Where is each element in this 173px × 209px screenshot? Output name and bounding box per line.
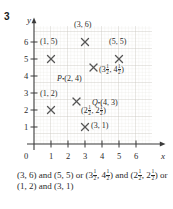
y-tick-5: 5 [24, 54, 28, 64]
y-tick-1: 1 [24, 122, 28, 132]
x-tick-1: 1 [49, 151, 53, 161]
x-axis-label: x [160, 151, 165, 161]
y-axis-label: y [26, 15, 31, 25]
coordinate-graph: 0 1 2 3 4 5 6 1 2 3 4 5 6 y x (1, 5) (3,… [16, 14, 171, 164]
x-tick-5: 5 [117, 151, 121, 161]
point-coords-P: (2, 4) [64, 74, 81, 83]
label-frac2-close: ) [103, 106, 106, 115]
x-tick-4: 4 [100, 151, 105, 161]
label-frac2-mid: , 2 [91, 106, 99, 115]
label-frac2-open: (2 [81, 106, 88, 115]
caption-seg2: , 4 [97, 170, 106, 180]
label-point-1-5: (1, 5) [40, 38, 57, 47]
label-point-1-2: (1, 2) [40, 90, 57, 99]
caption-seg4: (2 [130, 170, 138, 180]
answer-caption: (3, 6) and (5, 5) or (312, 412) and (212… [17, 169, 169, 192]
label-frac-close: ) [121, 65, 124, 74]
worksheet-answer-figure: 3 [0, 0, 173, 209]
x-tick-3: 3 [83, 151, 87, 161]
label-point-3-1: (3, 1) [91, 122, 108, 131]
x-tick-2: 2 [66, 151, 70, 161]
origin-label: 0 [24, 151, 28, 161]
label-point-3-6: (3, 6) [74, 21, 91, 30]
label-point-5-5: (5, 5) [109, 38, 126, 47]
label-point-P: P•(2, 4) [57, 75, 82, 84]
label-frac-open: (3 [99, 65, 106, 74]
x-tick-6: 6 [134, 151, 138, 161]
label-point-2half-2half: (212, 212) [81, 105, 106, 116]
question-number: 3 [4, 12, 10, 22]
caption-seg5: , 2 [142, 170, 151, 180]
y-tick-6: 6 [24, 37, 28, 47]
y-tick-4: 4 [24, 71, 29, 81]
caption-seg3: ) and [110, 170, 128, 180]
label-frac-mid: , 4 [109, 65, 117, 74]
y-tick-2: 2 [24, 105, 28, 115]
caption-seg1: (3, 6) and (5, 5) or (3 [17, 170, 93, 180]
label-point-3half-4half: (312, 412) [99, 64, 124, 75]
y-tick-3: 3 [24, 88, 28, 98]
